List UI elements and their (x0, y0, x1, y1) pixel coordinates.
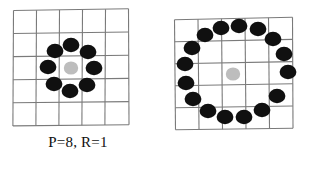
caption-p8-r1: P=8, R=1 (0, 134, 156, 151)
neighbor-node (269, 89, 286, 103)
neighbor-node (63, 38, 80, 52)
neighbor-node (231, 19, 248, 33)
neighbor-node (178, 76, 195, 90)
neighbor-node (217, 110, 234, 124)
panel-p16-r2: P=16, R=2 (156, 0, 312, 174)
figure-root: P=8, R=1 (0, 0, 312, 174)
neighbor-node (79, 78, 96, 92)
neighbor-node (280, 65, 297, 79)
panel-p8-r1: P=8, R=1 (0, 0, 156, 174)
neighbor-node (184, 41, 201, 55)
neighbor-node (80, 45, 97, 59)
neighbor-node (254, 103, 271, 117)
neighbor-node (197, 28, 214, 42)
neighbor-node (265, 32, 282, 46)
panel-p16-r2-graphic (156, 0, 312, 174)
neighbor-node (236, 110, 253, 124)
neighbor-node (177, 57, 194, 71)
neighbor-node (250, 22, 267, 36)
center-pixel-p8-r1 (64, 61, 78, 74)
neighbor-node (213, 21, 230, 35)
neighbor-node (40, 60, 57, 74)
neighbor-node (47, 44, 64, 58)
neighbor-node (185, 92, 202, 106)
center-pixel-p16-r2 (226, 67, 240, 80)
neighbor-node (46, 77, 63, 91)
neighbor-node (276, 47, 293, 61)
neighbor-node (200, 104, 217, 118)
neighbor-node (86, 61, 103, 75)
neighbor-node (62, 84, 79, 98)
